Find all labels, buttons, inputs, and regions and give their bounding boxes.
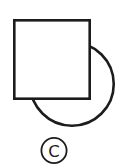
square-shape <box>14 20 89 98</box>
figure-canvas: C <box>0 0 124 167</box>
label-letter: C <box>48 142 60 161</box>
figure: C <box>0 0 124 167</box>
